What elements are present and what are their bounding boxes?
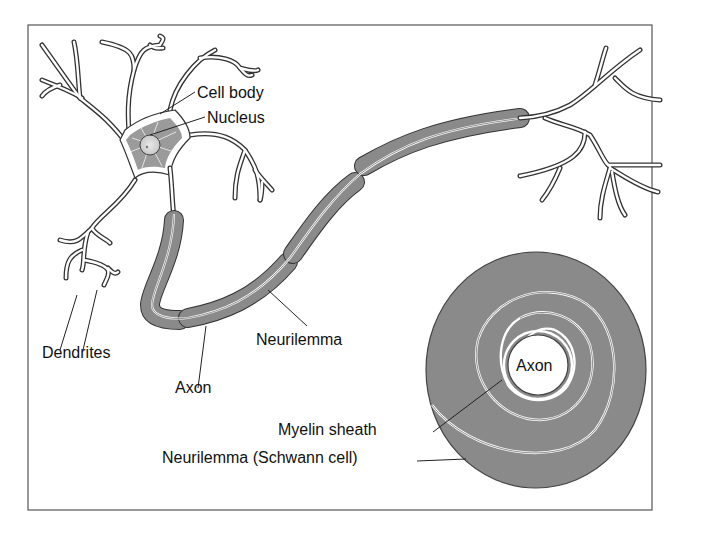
label-nucleus: Nucleus — [207, 109, 265, 126]
label-dendrites: Dendrites — [42, 344, 110, 361]
label-cell-body: Cell body — [197, 84, 264, 101]
nucleus — [140, 135, 160, 155]
label-axon: Axon — [175, 379, 211, 396]
label-myelin-sheath: Myelin sheath — [278, 421, 377, 438]
label-neurilemma-schwann: Neurilemma (Schwann cell) — [162, 449, 358, 466]
label-neurilemma: Neurilemma — [256, 331, 342, 348]
label-cross-section-axon: Axon — [516, 357, 552, 374]
neuron-diagram: Cell body Nucleus Dendrites Axon Neurile… — [0, 0, 703, 547]
